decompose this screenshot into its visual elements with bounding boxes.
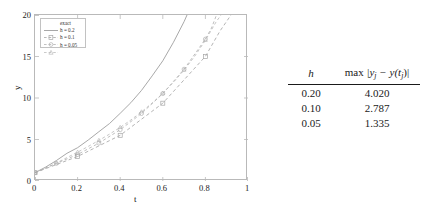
legend-item-h005: h = 0.05 [43, 42, 83, 49]
table-header-row: h max |yj − y(tj)| [288, 66, 420, 85]
legend-item-h01: h = 0.1 [43, 34, 83, 41]
y-axis-label: y [12, 86, 22, 91]
table-row: 0.05 1.335 [288, 115, 420, 130]
legend-label-exact: exact [59, 20, 71, 27]
x-tick-02: 0.2 [67, 183, 87, 193]
table-row: 0.20 4.020 [288, 85, 420, 101]
legend-item-exact: exact [43, 20, 83, 27]
header-h: h [288, 66, 334, 85]
legend-sample-exact [43, 20, 59, 27]
legend-sample-h02 [43, 27, 59, 34]
legend-label-h005: h = 0.05 [59, 42, 77, 49]
cell-error: 2.787 [334, 100, 420, 115]
y-tick-10: 10 [14, 93, 31, 103]
x-tick-04: 0.4 [109, 183, 129, 193]
markers-h005 [35, 38, 207, 174]
error-table: h max |yj − y(tj)| 0.20 4.020 0.10 2.787 [288, 66, 420, 130]
legend-sample-h005 [43, 42, 59, 49]
markers-h01 [35, 37, 207, 175]
cell-h: 0.20 [288, 85, 334, 101]
error-table-head: h max |yj − y(tj)| [288, 66, 420, 85]
y-tick-20: 20 [14, 10, 31, 20]
error-table-body: 0.20 4.020 0.10 2.787 0.05 1.335 [288, 85, 420, 131]
x-axis-label: t [134, 194, 137, 204]
legend-item-h02: h = 0.2 [43, 27, 83, 34]
error-table-wrap: h max |yj − y(tj)| 0.20 4.020 0.10 2.787 [288, 66, 420, 130]
legend-label-h02: h = 0.2 [59, 27, 75, 34]
x-tick-08: 0.8 [194, 183, 214, 193]
y-tick-15: 15 [14, 52, 31, 62]
header-error: max |yj − y(tj)| [334, 66, 420, 85]
y-tick-5: 5 [14, 135, 31, 145]
cell-h: 0.05 [288, 115, 334, 130]
x-tick-0: 0 [24, 183, 44, 193]
legend-label-h01: h = 0.1 [59, 34, 75, 41]
legend-dashed-triangle-icon [43, 49, 59, 56]
legend-sample-h01 [43, 34, 59, 41]
cell-error: 4.020 [334, 85, 420, 101]
x-tick-06: 0.6 [152, 183, 172, 193]
header-error-close: )| [403, 66, 409, 78]
figure-and-table-page: y t 0 5 10 15 20 0 0.2 0.4 0.6 0.8 1 [0, 0, 428, 221]
cell-h: 0.10 [288, 100, 334, 115]
header-error-minus: − y(t [377, 66, 402, 78]
header-h-text: h [308, 67, 314, 79]
header-error-max: max [345, 66, 364, 78]
plot-legend: exact h = 0.2 h = 0.1 [40, 18, 86, 48]
table-row: 0.10 2.787 [288, 100, 420, 115]
plot-figure: y t 0 5 10 15 20 0 0.2 0.4 0.6 0.8 1 [0, 0, 262, 221]
cell-error: 1.335 [334, 115, 420, 130]
x-tick-1: 1 [237, 183, 257, 193]
